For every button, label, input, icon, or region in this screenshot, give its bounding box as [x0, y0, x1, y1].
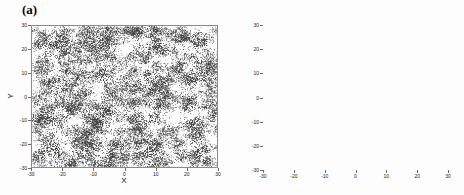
x-tick-label: 30 — [445, 173, 451, 179]
y-tick-label: 10 — [246, 70, 259, 76]
y-tick-label: -30 — [246, 167, 259, 173]
x-tick-label: -20 — [59, 171, 66, 177]
y-tick-label: 20 — [14, 46, 27, 52]
x-tick-label: 30 — [215, 171, 221, 177]
y-tick-mark — [260, 25, 263, 26]
x-tick-label: -30 — [259, 173, 266, 179]
y-tick-mark — [260, 98, 263, 99]
panel-b: (b) -30-20-100102030-30-20-100102030 — [232, 0, 464, 195]
y-tick-label: 10 — [14, 70, 27, 76]
x-tick-label: -10 — [321, 173, 328, 179]
y-tick-mark — [260, 170, 263, 171]
y-tick-mark — [28, 97, 31, 98]
panel-a-plot-area — [31, 25, 218, 168]
x-tick-label: -30 — [27, 171, 34, 177]
x-tick-label: 10 — [384, 173, 390, 179]
y-tick-mark — [260, 73, 263, 74]
x-tick-label: 20 — [414, 173, 420, 179]
y-tick-label: 30 — [246, 22, 259, 28]
panel-a-label: (a) — [22, 2, 37, 18]
y-tick-mark — [260, 122, 263, 123]
y-tick-mark — [260, 49, 263, 50]
y-tick-label: 0 — [246, 95, 259, 101]
y-tick-label: -20 — [14, 141, 27, 147]
x-tick-label: 20 — [184, 171, 190, 177]
y-tick-label: 0 — [14, 94, 27, 100]
y-tick-label: 20 — [246, 46, 259, 52]
x-tick-label: 10 — [153, 171, 159, 177]
panel-a-x-axis-title: X — [121, 176, 126, 185]
y-tick-label: 30 — [14, 22, 27, 28]
x-tick-label: 0 — [354, 173, 357, 179]
y-tick-mark — [28, 168, 31, 169]
panel-a-y-axis-title: Y — [6, 93, 15, 98]
y-tick-label: -30 — [14, 165, 27, 171]
y-tick-mark — [260, 146, 263, 147]
y-tick-label: -10 — [246, 119, 259, 125]
x-tick-label: -20 — [290, 173, 297, 179]
x-tick-label: -10 — [90, 171, 97, 177]
panel-a-scatter-canvas — [32, 26, 217, 167]
y-tick-mark — [28, 49, 31, 50]
y-tick-label: -10 — [14, 117, 27, 123]
y-tick-mark — [28, 25, 31, 26]
y-tick-mark — [28, 73, 31, 74]
figure-container: (a) -30-20-100102030-30-20-100102030 X Y… — [0, 0, 464, 195]
panel-a: (a) -30-20-100102030-30-20-100102030 X Y — [0, 0, 232, 195]
y-tick-label: -20 — [246, 143, 259, 149]
y-tick-mark — [28, 144, 31, 145]
y-tick-mark — [28, 120, 31, 121]
